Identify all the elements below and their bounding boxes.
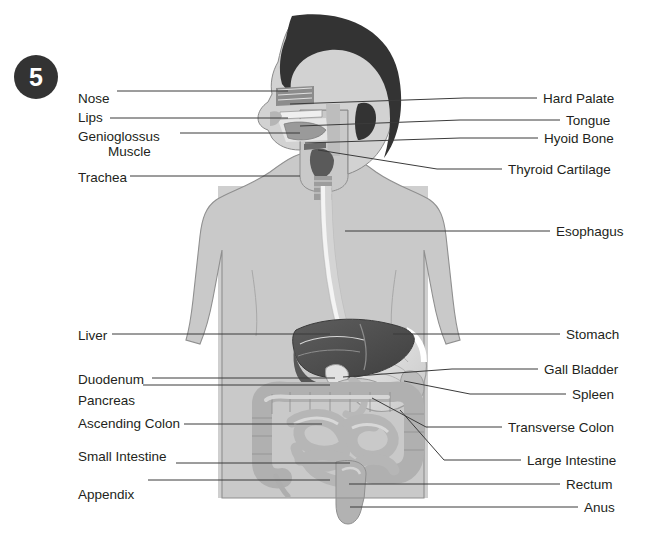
label-hyoid-bone: Hyoid Bone xyxy=(544,131,614,146)
label-ascending-colon: Ascending Colon xyxy=(78,416,180,431)
label-text: Small Intestine xyxy=(78,449,167,464)
label-text: Spleen xyxy=(572,387,614,402)
label-large-intestine: Large Intestine xyxy=(527,453,616,468)
label-text: Esophagus xyxy=(556,224,624,239)
label-text: Tongue xyxy=(566,113,610,128)
label-small-intestine: Small Intestine xyxy=(78,449,167,464)
label-text: Rectum xyxy=(566,477,613,492)
label-text: Liver xyxy=(78,328,107,343)
label-lips: Lips xyxy=(78,110,103,125)
label-text-line2: Muscle xyxy=(78,144,160,159)
label-text: Lips xyxy=(78,110,103,125)
label-genioglossus: GenioglossusMuscle xyxy=(78,129,160,159)
label-appendix: Appendix xyxy=(78,487,134,502)
label-stomach: Stomach xyxy=(566,327,619,342)
label-esophagus: Esophagus xyxy=(556,224,624,239)
label-duodenum: Duodenum xyxy=(78,372,144,387)
label-hard-palate: Hard Palate xyxy=(543,91,614,106)
label-text: Pancreas xyxy=(78,393,135,408)
anus-organ xyxy=(336,498,364,524)
label-text: Gall Bladder xyxy=(544,362,618,377)
label-tongue: Tongue xyxy=(566,113,610,128)
label-text: Hard Palate xyxy=(543,91,614,106)
label-text: Stomach xyxy=(566,327,619,342)
label-text: Ascending Colon xyxy=(78,416,180,431)
label-text: Nose xyxy=(78,91,110,106)
label-liver: Liver xyxy=(78,328,107,343)
label-rectum: Rectum xyxy=(566,477,613,492)
label-text: Hyoid Bone xyxy=(544,131,614,146)
label-transverse-colon: Transverse Colon xyxy=(508,420,614,435)
label-gall-bladder: Gall Bladder xyxy=(544,362,618,377)
label-text: Anus xyxy=(584,500,615,515)
figure-number-text: 5 xyxy=(29,63,43,92)
figure-number-badge: 5 xyxy=(14,55,58,99)
label-pancreas: Pancreas xyxy=(78,393,135,408)
label-text: Transverse Colon xyxy=(508,420,614,435)
figure-canvas: 5 NoseLipsGenioglossusMuscleTracheaLiver… xyxy=(0,0,645,541)
label-text: Thyroid Cartilage xyxy=(508,162,611,177)
label-text: Appendix xyxy=(78,487,134,502)
label-thyroid-cartilage: Thyroid Cartilage xyxy=(508,162,611,177)
label-text: Trachea xyxy=(78,170,127,185)
label-text: Duodenum xyxy=(78,372,144,387)
label-text: Genioglossus xyxy=(78,129,160,144)
label-spleen: Spleen xyxy=(572,387,614,402)
label-trachea: Trachea xyxy=(78,170,127,185)
label-nose: Nose xyxy=(78,91,110,106)
label-anus: Anus xyxy=(584,500,615,515)
label-text: Large Intestine xyxy=(527,453,616,468)
